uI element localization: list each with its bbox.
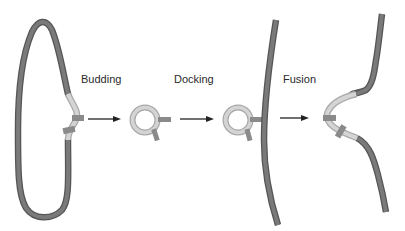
free-vesicle <box>133 108 172 142</box>
donor-compartment <box>18 22 84 217</box>
protein-tag <box>72 115 84 121</box>
stage-label-fusion: Fusion <box>283 73 316 85</box>
vesicle-trafficking-diagram <box>0 0 405 231</box>
protein-tag <box>158 117 171 122</box>
protein-tag <box>151 128 159 141</box>
protein-tag <box>245 128 253 141</box>
docked-vesicle <box>226 108 265 142</box>
arrow-docking <box>180 116 214 122</box>
protein-tag <box>323 115 336 121</box>
arrow-fusion <box>280 115 309 121</box>
stage-label-budding: Budding <box>81 73 121 85</box>
protein-tag <box>63 126 76 134</box>
target-membrane <box>264 20 278 225</box>
fused-membrane <box>323 14 386 212</box>
arrow-budding <box>88 116 121 122</box>
stage-label-docking: Docking <box>174 73 214 85</box>
